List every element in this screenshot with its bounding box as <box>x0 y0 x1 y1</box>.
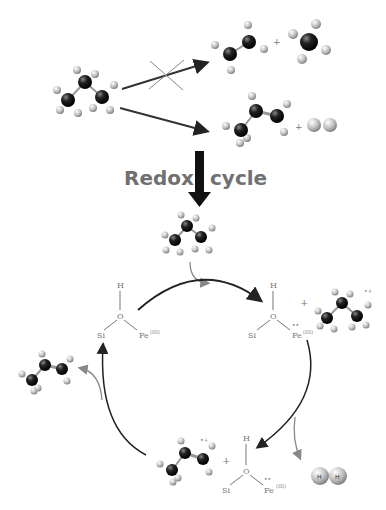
svg-text:Si: Si <box>222 486 230 495</box>
cycle-arrow-bottom-left <box>103 345 146 455</box>
h2-molecule-bottom: H H <box>311 467 347 485</box>
plus-sign: + <box>273 37 281 47</box>
svg-text:H: H <box>117 281 124 290</box>
svg-text:••: •• <box>292 321 299 328</box>
propylene-release-arrow <box>80 368 102 400</box>
cycle-arrow-right <box>258 340 311 447</box>
site-fe-reduced-right: H O Si •• Fe (III) <box>248 281 313 340</box>
svg-text:(III): (III) <box>150 329 160 335</box>
svg-text:O: O <box>243 467 250 476</box>
svg-text:Si: Si <box>97 331 105 340</box>
svg-text:(III): (III) <box>276 483 286 489</box>
methane-molecule <box>288 19 331 64</box>
title-cycle: cycle <box>210 166 267 190</box>
plus-sign: + <box>300 297 308 308</box>
site-fe-bottom: H O Si •• Fe (III) <box>222 434 286 495</box>
svg-text:O: O <box>117 312 124 321</box>
svg-text:Fe: Fe <box>139 331 149 340</box>
svg-text:••: •• <box>264 475 271 482</box>
svg-text:(III): (III) <box>303 329 313 335</box>
propane-radical-cation: •+ <box>315 287 373 333</box>
plus-sign: + <box>222 455 230 466</box>
cycle-arrow-top <box>138 280 260 310</box>
propane-molecule-middle <box>162 212 216 256</box>
propane-molecule-top <box>53 66 118 117</box>
propylene-molecule-left <box>19 351 74 395</box>
svg-text:Fe: Fe <box>292 331 302 340</box>
propylene-radical-cation: •+ <box>157 436 216 486</box>
svg-text:•+: •+ <box>200 436 209 443</box>
arrow-to-dehydrogenation <box>120 108 206 131</box>
redox-cycle-diagram: + + Redox cycle <box>0 0 386 510</box>
disfavored-cross <box>149 60 184 90</box>
svg-text:Fe: Fe <box>264 486 274 495</box>
plus-sign: + <box>295 122 303 132</box>
site-fe3-top-left: H O Si Fe (III) <box>97 281 160 340</box>
svg-text:H: H <box>270 281 277 290</box>
title-redox: Redox <box>124 166 194 190</box>
h2-molecule-top <box>307 118 337 132</box>
svg-text:H: H <box>335 473 340 480</box>
svg-text:H: H <box>243 434 250 443</box>
svg-text:Si: Si <box>248 331 256 340</box>
svg-text:H: H <box>317 473 322 480</box>
h2-release-arrow <box>294 417 300 458</box>
svg-text:O: O <box>270 312 277 321</box>
svg-text:•+: •+ <box>364 287 373 294</box>
ethylene-molecule <box>211 21 268 74</box>
propylene-molecule-top <box>222 92 291 147</box>
